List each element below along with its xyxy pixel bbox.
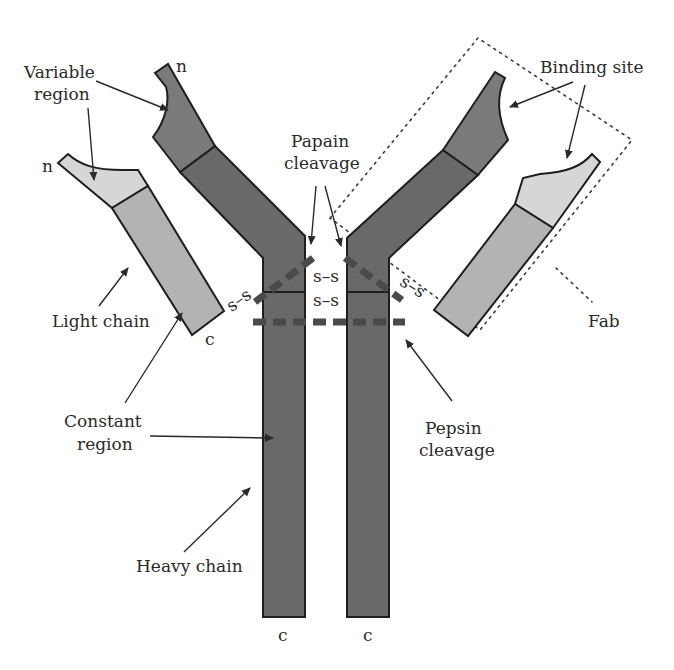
label-constant-region-1: Constant xyxy=(64,411,142,431)
label-heavy-chain: Heavy chain xyxy=(136,556,243,576)
terminal-n-light: n xyxy=(42,156,53,176)
arrow-variable-heavy xyxy=(96,81,168,110)
terminal-c-heavy-left: c xyxy=(278,625,288,645)
label-constant-region-2: region xyxy=(77,434,133,454)
light-chain-right-constant xyxy=(434,204,553,336)
antibody-diagram: s–s s–s s–s s–s n n c c c Variable regio… xyxy=(0,0,674,670)
heavy-chain-right-stem xyxy=(347,290,389,617)
label-binding-site: Binding site xyxy=(540,57,644,77)
label-light-chain: Light chain xyxy=(52,311,150,331)
heavy-chain-left-stem xyxy=(263,290,305,617)
arrow-heavy-chain xyxy=(184,488,250,552)
label-pepsin-1: Pepsin xyxy=(425,418,482,438)
terminal-c-heavy-right: c xyxy=(363,625,373,645)
arrow-constant-heavy xyxy=(150,436,273,438)
label-papain-2: cleavage xyxy=(284,153,360,173)
arrow-papain-right xyxy=(325,186,341,246)
disulfide-left-light-heavy: s–s xyxy=(222,284,255,315)
disulfide-hinge-upper: s–s xyxy=(313,266,339,286)
label-papain-1: Papain xyxy=(291,131,349,151)
disulfide-hinge-lower: s–s xyxy=(313,290,339,310)
label-pepsin-2: cleavage xyxy=(419,440,495,460)
fab-leader-line xyxy=(556,268,592,302)
terminal-n-heavy: n xyxy=(176,56,187,76)
arrow-binding-light xyxy=(567,85,585,158)
arrow-papain-left xyxy=(311,186,316,244)
label-variable-region-1: Variable xyxy=(23,62,95,82)
arrow-pepsin xyxy=(406,340,452,401)
label-fab: Fab xyxy=(588,311,620,331)
arrow-light-chain xyxy=(99,268,128,306)
terminal-c-light: c xyxy=(205,329,215,349)
label-variable-region-2: region xyxy=(34,84,90,104)
